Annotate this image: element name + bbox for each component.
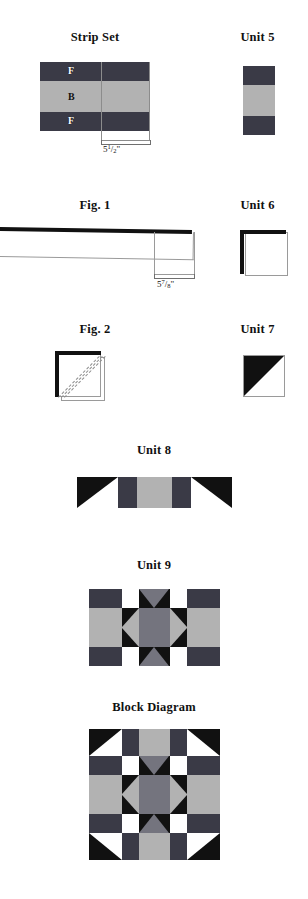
fig-2-title: Fig. 2 [0,322,190,337]
unit-9-r2-c2-star-point-left [122,608,139,647]
block-r5-c4-dark [170,833,187,860]
strip-set-band-label-f-bottom: F [68,115,74,126]
unit-5-band-middle [243,85,275,116]
fig-1-measure-unit: " [171,279,175,289]
fig-2-dark-top-edge [55,351,101,355]
unit-9-r3-c3-star-point-bottom [139,647,170,666]
block-r5-c3-light [139,833,170,860]
unit-5-band-top [243,66,275,85]
unit-9-r2-c3-star-center [139,608,170,647]
unit-7-figure [243,355,285,397]
block-r5c1-dark-triangle [89,833,122,860]
unit-9-left-point-dark-triangle-lower [122,628,139,647]
strip-set-measure-numerator: 1 [108,143,111,150]
unit-9-title: Unit 9 [0,558,308,573]
unit-8-segment-dark-left [118,477,137,508]
unit-8-title: Unit 8 [0,443,308,458]
block-r2-c2-white [122,756,139,775]
block-right-point-dark-triangle-upper [170,775,187,794]
block-r4-c4-white [170,814,187,833]
block-r3-c1-light [89,775,122,814]
block-r5c5-dark-triangle [187,833,220,860]
strip-set-band-label-f-top: F [68,65,74,76]
unit-6-dark-left-edge [240,230,244,274]
unit-9-right-point-dark-triangle-upper [170,608,187,627]
unit-9-r3-c1-dark [89,647,122,666]
block-r1-c1-corner-triangle [89,729,122,756]
fig-1-measure-numerator: 7 [162,278,165,285]
block-r4-c5-dark [187,814,220,833]
unit-9-right-point-dark-triangle-lower [170,628,187,647]
strip-set-measure-unit: " [117,144,121,154]
unit-9-r3-c4-white [170,647,187,666]
strip-set-title: Strip Set [0,30,190,45]
unit-9-r1-c2-white [122,589,139,608]
unit-8-segment-light-center [137,477,172,508]
unit-9-top-point-gray-triangle [139,589,169,608]
block-r4-c3-star-point-bottom [139,814,170,833]
unit-5-title: Unit 5 [210,30,305,45]
unit-8-segment-triangle-left [77,477,118,508]
block-r5-c2-dark [122,833,139,860]
unit-6-title: Unit 6 [210,198,305,213]
block-r2-c4-white [170,756,187,775]
block-r1-c5-corner-triangle [187,729,220,756]
unit-7-title: Unit 7 [210,322,305,337]
block-r3-c4-star-point-right [170,775,187,814]
unit-9-r1-c1-dark [89,589,122,608]
block-diagram-title: Block Diagram [0,700,308,715]
block-r1-c4-dark [170,729,187,756]
block-diagram-figure [89,729,220,860]
block-r5-c1-corner-triangle [89,833,122,860]
unit-9-r3-c5-dark [187,647,220,666]
block-r3-c5-light [187,775,220,814]
unit-9-r2-c1-light [89,608,122,647]
block-r4-c2-white [122,814,139,833]
block-r3-c3-star-center [139,775,170,814]
fig-2-dark-left-edge [55,351,59,397]
unit-6-dark-top-edge [240,230,286,234]
unit-9-r1-c3-star-point-top [139,589,170,608]
block-r1-c3-light [139,729,170,756]
block-r5-c5-corner-triangle [187,833,220,860]
block-r2-c5-dark [187,756,220,775]
unit-8-right-dark-triangle [191,477,232,508]
unit-8-left-dark-triangle [77,477,118,508]
unit-9-figure [89,589,220,666]
unit-6-square [245,232,288,276]
block-r4-c1-dark [89,814,122,833]
block-right-point-dark-triangle-lower [170,795,187,814]
unit-8-segment-dark-right [172,477,191,508]
fig-1-title: Fig. 1 [0,198,190,213]
unit-9-r2-c5-light [187,608,220,647]
unit-5-band-bottom [243,116,275,135]
block-r2-c3-star-point-top [139,756,170,775]
fig-1-measurement: 57/8" [157,279,174,289]
block-bottom-point-gray-triangle [139,814,169,833]
block-top-point-gray-triangle [139,756,169,775]
diagram-page: Strip Set F B F 51/2" Unit 5 Fig. 1 [0,0,308,899]
strip-set-band-label-b: B [68,91,75,102]
strip-set-cut-guide-box [101,62,150,141]
unit-9-r3-c2-white [122,647,139,666]
unit-9-r1-c5-dark [187,589,220,608]
block-r1c5-dark-triangle [187,729,220,756]
block-left-point-dark-triangle-upper [122,775,139,794]
block-r3-c2-star-point-left [122,775,139,814]
strip-set-measurement: 51/2" [103,144,120,154]
unit-8-figure [77,477,232,508]
unit-7-dark-triangle [244,356,284,396]
block-r2-c1-dark [89,756,122,775]
unit-9-bottom-point-gray-triangle [139,647,169,666]
unit-9-r1-c4-white [170,589,187,608]
unit-9-r2-c4-star-point-right [170,608,187,647]
block-r1-c2-dark [122,729,139,756]
unit-8-segment-triangle-right [191,477,232,508]
unit-9-left-point-dark-triangle-upper [122,608,139,627]
block-r1c1-dark-triangle [89,729,122,756]
fig-1-cut-segment [154,232,195,275]
block-left-point-dark-triangle-lower [122,795,139,814]
